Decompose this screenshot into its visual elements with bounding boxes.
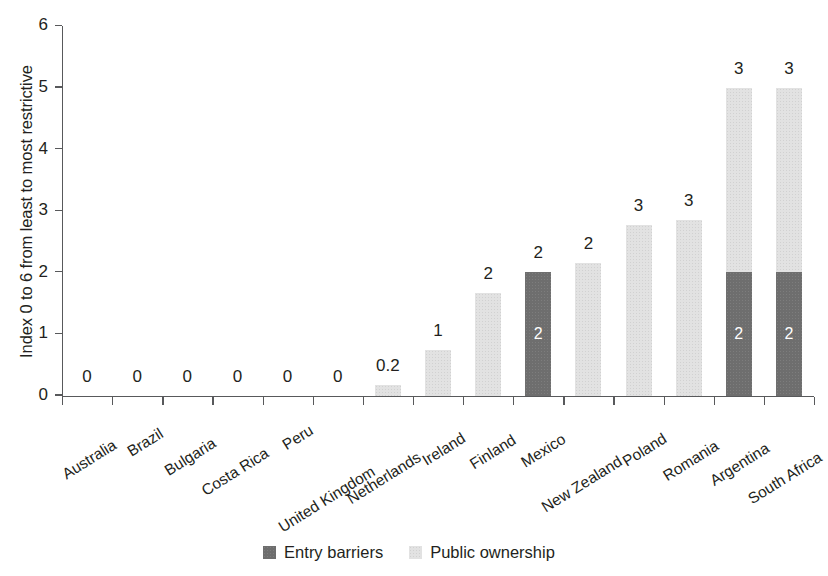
bar-segment-public-ownership[interactable] [575, 263, 601, 396]
x-axis-tick [162, 397, 163, 405]
bar-group[interactable]: 3 [676, 220, 702, 396]
bar-value-label: 3 [776, 59, 802, 79]
x-axis-tick [363, 397, 364, 405]
y-axis-tick: 0 [55, 394, 62, 395]
bar-value-label: 1 [425, 321, 451, 341]
y-axis-tick: 5 [55, 86, 62, 87]
bar-group[interactable]: 2 [575, 263, 601, 396]
bar-segment-entry-barriers[interactable]: 2 [726, 272, 752, 395]
y-axis-tick: 3 [55, 210, 62, 211]
bar-group[interactable]: 2 [475, 293, 501, 396]
bar-value-label: 2 [525, 243, 551, 263]
bar-segment-public-ownership[interactable] [475, 293, 501, 396]
bar-inner-value-label: 2 [726, 325, 752, 343]
bar-value-label: 3 [676, 191, 702, 211]
x-axis-label-text: Bulgaria [162, 434, 220, 479]
x-axis-label-text: New Zealand [539, 452, 626, 516]
bar-value-label: 3 [726, 59, 752, 79]
x-axis-tick [714, 397, 715, 405]
y-axis-tick-label: 2 [39, 262, 48, 282]
x-axis-tick [62, 397, 63, 405]
legend-swatch [263, 546, 276, 559]
y-axis-tick: 6 [55, 25, 62, 26]
bar-group[interactable]: 0 [174, 395, 200, 396]
legend-item[interactable]: Public ownership [409, 543, 555, 562]
y-axis-tick: 2 [55, 271, 62, 272]
y-axis-tick-label: 4 [39, 139, 48, 159]
y-axis-tick-label: 5 [39, 77, 48, 97]
bar-segment-entry-barriers[interactable]: 2 [525, 272, 551, 395]
x-axis-tick [413, 397, 414, 405]
x-axis-tick [563, 397, 564, 405]
bar-value-label: 2 [575, 234, 601, 254]
bar-segment-public-ownership[interactable] [626, 225, 652, 396]
x-axis-tick [313, 397, 314, 405]
y-axis-tick-label: 0 [39, 385, 48, 405]
bar-group[interactable]: 23 [726, 88, 752, 396]
bar-segment-public-ownership[interactable] [726, 88, 752, 273]
bar-value-label: 0 [275, 367, 301, 387]
x-axis-label: Mexico [560, 404, 611, 445]
bar-segment-public-ownership[interactable] [676, 220, 702, 396]
y-axis-tick: 1 [55, 333, 62, 334]
bar-segment-public-ownership[interactable] [375, 385, 401, 395]
y-axis-title: Index 0 to 6 from least to most restrict… [17, 12, 36, 412]
x-axis-line [62, 396, 814, 397]
bar-value-label: 0 [124, 367, 150, 387]
bar-group[interactable]: 1 [425, 350, 451, 396]
bar-value-label: 0 [174, 367, 200, 387]
y-axis-tick-label: 6 [39, 15, 48, 35]
x-axis-label-text: Australia [59, 436, 120, 483]
bar-inner-value-label: 2 [776, 325, 802, 343]
bar-inner-value-label: 2 [525, 325, 551, 343]
x-axis-tick [513, 397, 514, 405]
bar-segment-public-ownership[interactable] [425, 350, 451, 396]
legend: Entry barriersPublic ownership [0, 543, 818, 562]
bar-group[interactable]: 0 [74, 395, 100, 396]
y-axis-tick-label: 3 [39, 200, 48, 220]
y-axis-tick-label: 1 [39, 323, 48, 343]
bar-value-label: 0 [224, 367, 250, 387]
bar-group[interactable]: 0.2 [375, 385, 401, 395]
legend-label: Entry barriers [284, 543, 383, 562]
bar-segment-entry-barriers[interactable]: 2 [776, 272, 802, 395]
bar-segment-public-ownership[interactable] [776, 88, 802, 273]
bar-group[interactable]: 0 [124, 395, 150, 396]
bar-group[interactable]: 3 [626, 225, 652, 396]
x-axis-tick [212, 397, 213, 405]
bar-value-label: 3 [626, 196, 652, 216]
legend-swatch [409, 546, 422, 559]
x-axis-label: Peru [307, 404, 344, 437]
x-axis-tick [463, 397, 464, 405]
bar-group[interactable]: 0 [275, 395, 301, 396]
legend-item[interactable]: Entry barriers [263, 543, 383, 562]
x-axis-tick [112, 397, 113, 405]
bar-group[interactable]: 0 [224, 395, 250, 396]
bar-value-label: 2 [475, 264, 501, 284]
x-axis-tick [664, 397, 665, 405]
bar-group[interactable]: 23 [776, 88, 802, 396]
bar-group[interactable]: 22 [525, 272, 551, 395]
y-axis-line [62, 26, 63, 397]
legend-label: Public ownership [430, 543, 555, 562]
x-axis-tick [263, 397, 264, 405]
bar-value-label: 0.2 [375, 356, 401, 376]
x-axis-tick [613, 397, 614, 405]
bar-group[interactable]: 0 [325, 395, 351, 396]
x-axis-tick [814, 397, 815, 405]
x-axis-label: Bulgaria [210, 404, 268, 449]
bar-value-label: 0 [74, 367, 100, 387]
bar-value-label: 0 [325, 367, 351, 387]
y-axis-tick: 4 [55, 148, 62, 149]
plot-area: 0123456 0000000.212222332323 [62, 20, 814, 397]
